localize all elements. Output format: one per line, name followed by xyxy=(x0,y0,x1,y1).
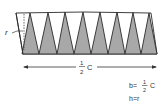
base-fraction-denominator: 2 xyxy=(80,69,84,75)
formula-b-symbol: C xyxy=(150,82,155,89)
arrowhead-right-icon xyxy=(152,65,157,68)
parallelogram-diagram: r 1 2 C b= 1 2 C h=r xyxy=(0,0,164,107)
radius-label: r xyxy=(5,28,8,37)
formula-h: h=r xyxy=(129,95,140,102)
formula-b-denominator: 2 xyxy=(143,87,146,93)
arrowhead-left-icon xyxy=(23,65,28,68)
sector-strip xyxy=(16,12,157,54)
base-symbol: C xyxy=(87,63,93,72)
base-fraction-numerator: 1 xyxy=(80,60,84,66)
formula-b-lhs: b= xyxy=(129,82,137,89)
formula-b-numerator: 1 xyxy=(143,79,146,85)
